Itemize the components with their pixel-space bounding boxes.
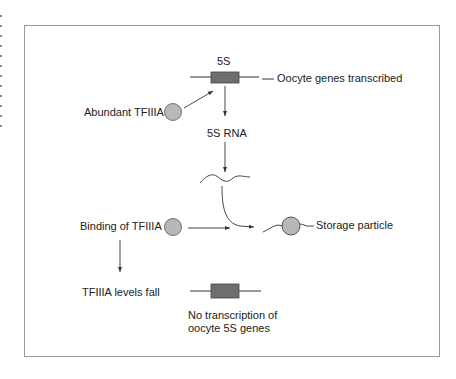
curved-arrow-icon xyxy=(222,186,254,227)
top-gene-label: 5S xyxy=(217,55,230,68)
rna-tail-left-icon xyxy=(263,225,283,232)
5s-rna-label: 5S RNA xyxy=(207,127,247,140)
no-transcription-label-line2: oocyte 5S genes xyxy=(188,322,270,335)
abundant-tfiiia-label: Abundant TFIIIA xyxy=(84,106,164,119)
no-transcription-label-line1: No transcription of xyxy=(188,309,277,322)
storage-particle-label: Storage particle xyxy=(316,219,393,232)
tfiiia-circle-icon xyxy=(165,104,182,121)
top-5s-gene-icon xyxy=(190,72,259,83)
bottom-5s-gene-icon xyxy=(190,284,261,298)
rna-wave-icon xyxy=(200,175,250,183)
binding-of-tfiiia-label: Binding of TFIIIA xyxy=(80,220,162,233)
rna-tail-right-icon xyxy=(300,224,314,226)
oocyte-genes-transcribed-label: Oocyte genes transcribed xyxy=(277,72,402,85)
tfiiia-levels-fall-label: TFIIIA levels fall xyxy=(82,286,160,299)
storage-particle-circle-icon xyxy=(282,217,300,235)
tfiiia-binding-circle-icon xyxy=(165,219,182,236)
arrow-icon xyxy=(184,91,213,108)
